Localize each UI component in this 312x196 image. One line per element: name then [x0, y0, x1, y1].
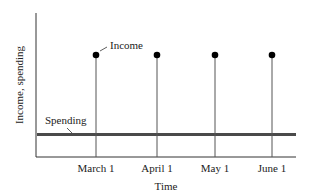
x-tick-label: May 1: [201, 162, 229, 174]
income-marker: [154, 52, 161, 59]
income-marker: [269, 52, 276, 59]
x-tick-labels: March 1 April 1 May 1 June 1: [78, 162, 287, 174]
income-stems: [93, 52, 276, 157]
y-axis-label: Income, spending: [13, 45, 25, 124]
spending-annotation: Spending: [45, 114, 87, 126]
x-tick-label: March 1: [78, 162, 115, 174]
x-tick-label: June 1: [258, 162, 286, 174]
x-axis-label: Time: [155, 180, 178, 192]
income-marker: [93, 52, 100, 59]
income-annotation: Income: [110, 39, 143, 51]
spending-annotation-leader: [67, 128, 72, 133]
income-annotation-leader: [100, 47, 107, 51]
chart: Income Spending March 1 April 1 May 1 Ju…: [0, 0, 312, 196]
x-tick-label: April 1: [141, 162, 172, 174]
income-marker: [212, 52, 219, 59]
